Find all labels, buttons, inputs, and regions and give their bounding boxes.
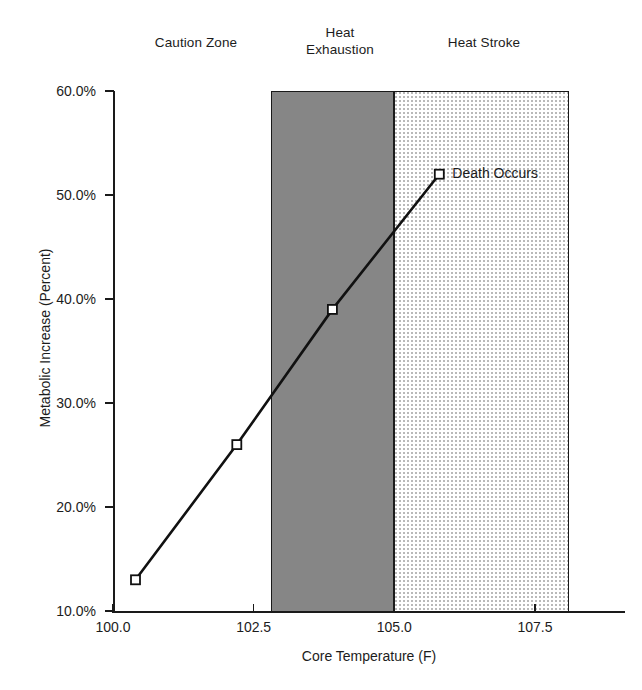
x-axis-tick-label: 102.5 [209, 619, 299, 635]
y-axis-tick [105, 90, 114, 92]
x-axis-tick [112, 604, 114, 613]
zone-label-caution-zone: Caution Zone [116, 34, 276, 51]
x-axis-line [113, 611, 625, 613]
x-axis-tick-label: 107.5 [490, 619, 580, 635]
x-axis-tick [394, 604, 396, 613]
zone-band-heat-exhaustion [271, 91, 395, 612]
y-axis-tick [105, 402, 114, 404]
y-axis-line [113, 91, 115, 612]
plot-area [113, 91, 625, 612]
x-axis-title: Core Temperature (F) [113, 648, 625, 664]
x-axis-tick [253, 604, 255, 613]
zone-label-heat-exhaustion: Heat Exhaustion [262, 24, 418, 58]
y-axis-tick [105, 298, 114, 300]
y-axis-tick-label: 10.0% [0, 603, 96, 619]
y-axis-title: Metabolic Increase (Percent) [37, 88, 53, 588]
y-axis-tick [105, 194, 114, 196]
zone-label-heat-stroke: Heat Stroke [406, 34, 562, 51]
x-axis-tick-label: 105.0 [349, 619, 439, 635]
x-axis-tick-label: 100.0 [68, 619, 158, 635]
annotation-death-occurs: Death Occurs [452, 165, 538, 181]
chart-container: Caution Zone Heat Exhaustion Heat Stroke… [0, 0, 642, 690]
x-axis-tick [534, 604, 536, 613]
y-axis-tick [105, 506, 114, 508]
